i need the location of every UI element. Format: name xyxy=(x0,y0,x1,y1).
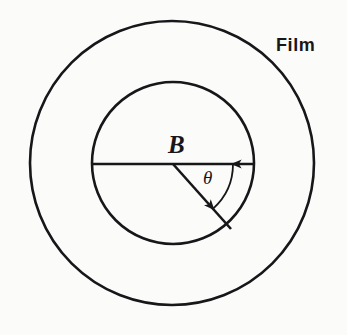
center-point-label-b: B xyxy=(168,132,185,157)
figure-canvas: Film B θ xyxy=(0,0,347,335)
angled-radius-line xyxy=(173,164,231,229)
angle-arc-double-arrow xyxy=(213,164,233,209)
angle-label-theta: θ xyxy=(203,168,212,187)
film-label: Film xyxy=(276,36,315,54)
